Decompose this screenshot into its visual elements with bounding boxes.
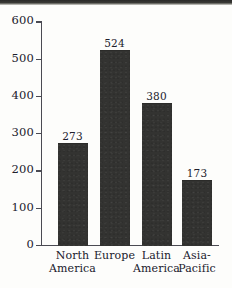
bar-latin-america <box>142 103 172 245</box>
bar-value-latin-america: 380 <box>137 91 177 102</box>
category-label-asia-pacific: Asia- Pacific <box>171 250 223 275</box>
y-tick-200 <box>36 170 41 171</box>
y-tick-400 <box>36 96 41 97</box>
y-tick-600 <box>36 21 41 22</box>
y-tick-500 <box>36 59 41 60</box>
bar-europe <box>100 50 130 246</box>
category-label-line-2: Pacific <box>171 263 223 276</box>
y-axis-label-200: 200 <box>0 164 34 176</box>
y-axis-label-100: 100 <box>0 202 34 214</box>
y-axis-label-0: 0 <box>0 239 34 251</box>
bar-value-asia-pacific: 173 <box>177 168 217 179</box>
y-axis-label-600: 600 <box>0 15 34 27</box>
y-tick-300 <box>36 133 41 134</box>
bar-asia-pacific <box>182 180 212 245</box>
bar-north-america <box>58 143 88 246</box>
category-label-line-2: America <box>47 263 99 276</box>
y-axis-label-500: 500 <box>0 53 34 65</box>
bar-value-europe: 524 <box>95 38 135 49</box>
bar-chart-figure: 600 500 400 300 200 100 0 273 524 380 17… <box>0 0 232 288</box>
plot-area: 600 500 400 300 200 100 0 273 524 380 17… <box>0 0 232 288</box>
y-axis-label-300: 300 <box>0 127 34 139</box>
y-axis-line <box>41 21 42 246</box>
category-label-line-1: Asia- <box>171 250 223 263</box>
y-tick-100 <box>36 208 41 209</box>
bar-value-north-america: 273 <box>53 131 93 142</box>
y-axis-label-400: 400 <box>0 90 34 102</box>
y-tick-0 <box>36 245 41 246</box>
